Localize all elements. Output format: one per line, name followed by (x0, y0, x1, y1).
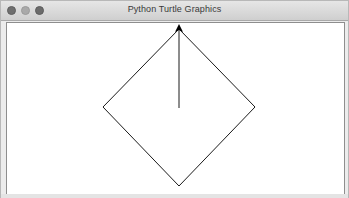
turtle-window: Python Turtle Graphics (0, 0, 349, 198)
title-bar[interactable]: Python Turtle Graphics (1, 1, 348, 21)
turtle-canvas[interactable] (7, 23, 344, 194)
window-title: Python Turtle Graphics (1, 4, 348, 14)
turtle-canvas-frame (6, 22, 345, 195)
window-bottom-edge (1, 194, 348, 198)
